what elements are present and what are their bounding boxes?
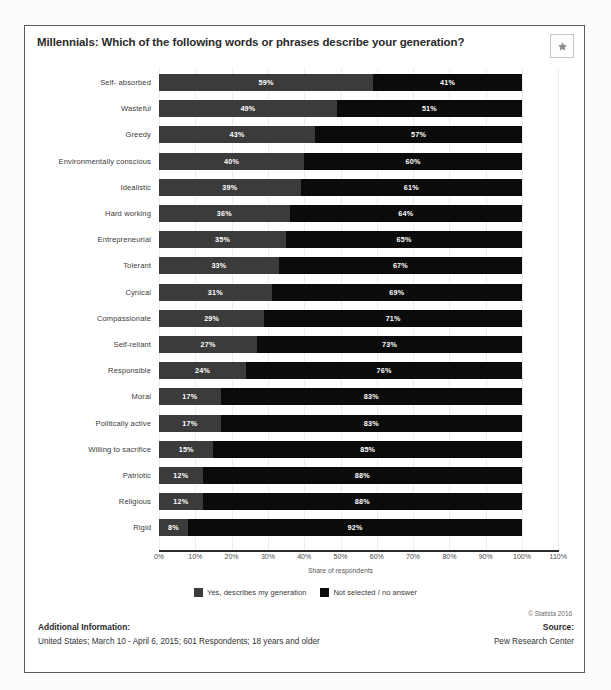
chart-bar-row: Willing to sacrifice15%85% [25, 437, 586, 462]
bar-segment-no[interactable]: 92% [188, 519, 522, 536]
legend-swatch [320, 588, 329, 597]
stacked-bar[interactable]: 24%76% [159, 362, 559, 379]
stacked-bar[interactable]: 40%60% [159, 153, 559, 170]
x-axis-tick: 50% [321, 553, 361, 560]
stacked-bar[interactable]: 15%85% [159, 441, 559, 458]
stacked-bar[interactable]: 33%67% [159, 257, 559, 274]
category-label: Patriotic [25, 463, 151, 488]
stacked-bar[interactable]: 31%69% [159, 284, 559, 301]
x-axis-tick: 80% [429, 553, 469, 560]
source-heading: Source: [374, 622, 574, 632]
category-label: Rigid [25, 515, 151, 540]
bar-segment-no[interactable]: 64% [290, 205, 522, 222]
x-axis-tick-labels: 0%10%20%30%40%50%60%70%80%90%100%110% [25, 553, 586, 567]
chart-legend: Yes, describes my generationNot selected… [25, 588, 586, 597]
category-label: Moral [25, 384, 151, 409]
legend-swatch [194, 588, 203, 597]
category-label: Environmentally conscious [25, 149, 151, 174]
x-axis-title: Share of respondents [159, 567, 522, 574]
page-title: Millennials: Which of the following word… [37, 36, 537, 48]
bar-segment-no[interactable]: 88% [203, 467, 522, 484]
category-label: Self-reliant [25, 332, 151, 357]
category-label: Hard working [25, 201, 151, 226]
bar-segment-yes[interactable]: 35% [159, 231, 286, 248]
bar-segment-no[interactable]: 85% [213, 441, 522, 458]
chart-card: Millennials: Which of the following word… [24, 25, 585, 673]
legend-label: Not selected / no answer [333, 588, 417, 597]
chart-bar-row: Patriotic12%88% [25, 463, 586, 488]
stacked-bar[interactable]: 12%88% [159, 493, 559, 510]
stacked-bar[interactable]: 49%51% [159, 100, 559, 117]
stacked-bar[interactable]: 59%41% [159, 74, 559, 91]
category-label: Wasteful [25, 96, 151, 121]
x-axis-tick: 40% [284, 553, 324, 560]
bar-segment-yes[interactable]: 12% [159, 493, 203, 510]
source-body: Pew Research Center [374, 635, 574, 649]
bar-segment-yes[interactable]: 27% [159, 336, 257, 353]
bar-segment-yes[interactable]: 40% [159, 153, 304, 170]
bar-segment-yes[interactable]: 33% [159, 257, 279, 274]
bar-segment-yes[interactable]: 39% [159, 179, 301, 196]
category-label: Tolerant [25, 253, 151, 278]
bar-segment-no[interactable]: 76% [246, 362, 522, 379]
chart-plot-area: Self- absorbed59%41%Wasteful49%51%Greedy… [25, 68, 586, 548]
stacked-bar[interactable]: 29%71% [159, 310, 559, 327]
chart-bar-row: Self- absorbed59%41% [25, 70, 586, 95]
bar-segment-no[interactable]: 67% [279, 257, 522, 274]
bar-segment-yes[interactable]: 17% [159, 415, 221, 432]
additional-information-body: United States; March 10 - April 6, 2015;… [38, 635, 368, 649]
chart-bar-row: Greedy43%57% [25, 122, 586, 147]
star-icon [557, 41, 568, 52]
bar-segment-no[interactable]: 57% [315, 126, 522, 143]
bar-segment-yes[interactable]: 59% [159, 74, 373, 91]
bar-segment-no[interactable]: 88% [203, 493, 522, 510]
legend-item[interactable]: Not selected / no answer [320, 588, 417, 597]
bar-segment-no[interactable]: 60% [304, 153, 522, 170]
bar-segment-no[interactable]: 71% [264, 310, 522, 327]
stacked-bar[interactable]: 17%83% [159, 415, 559, 432]
additional-information-heading: Additional Information: [38, 622, 368, 632]
x-axis-tick: 30% [248, 553, 288, 560]
copyright-notice: © Statista 2016 [528, 610, 572, 617]
stacked-bar[interactable]: 35%65% [159, 231, 559, 248]
bar-segment-no[interactable]: 83% [221, 388, 522, 405]
bar-segment-no[interactable]: 51% [337, 100, 522, 117]
bar-segment-yes[interactable]: 12% [159, 467, 203, 484]
stacked-bar[interactable]: 27%73% [159, 336, 559, 353]
stacked-bar[interactable]: 12%88% [159, 467, 559, 484]
bar-segment-no[interactable]: 83% [221, 415, 522, 432]
chart-bar-row: Rigid8%92% [25, 515, 586, 540]
stacked-bar[interactable]: 8%92% [159, 519, 559, 536]
bar-segment-yes[interactable]: 15% [159, 441, 213, 458]
stacked-bar[interactable]: 36%64% [159, 205, 559, 222]
legend-item[interactable]: Yes, describes my generation [194, 588, 306, 597]
bar-segment-no[interactable]: 61% [301, 179, 522, 196]
favorite-button[interactable] [550, 34, 574, 58]
bar-segment-yes[interactable]: 36% [159, 205, 290, 222]
bar-segment-yes[interactable]: 8% [159, 519, 188, 536]
chart-bar-row: Compassionate29%71% [25, 306, 586, 331]
chart-header: Millennials: Which of the following word… [25, 26, 584, 62]
x-axis-tick: 70% [393, 553, 433, 560]
bar-segment-yes[interactable]: 49% [159, 100, 337, 117]
bar-segment-no[interactable]: 65% [286, 231, 522, 248]
category-label: Willing to sacrifice [25, 437, 151, 462]
x-axis-tick: 0% [139, 553, 179, 560]
bar-segment-yes[interactable]: 31% [159, 284, 272, 301]
stacked-bar[interactable]: 17%83% [159, 388, 559, 405]
category-label: Cynical [25, 280, 151, 305]
chart-bar-row: Entrepreneurial35%65% [25, 227, 586, 252]
bar-segment-no[interactable]: 73% [257, 336, 522, 353]
chart-bar-row: Tolerant33%67% [25, 253, 586, 278]
bar-segment-no[interactable]: 41% [373, 74, 522, 91]
chart-bar-row: Moral17%83% [25, 384, 586, 409]
bar-segment-yes[interactable]: 43% [159, 126, 315, 143]
stacked-bar[interactable]: 43%57% [159, 126, 559, 143]
bar-segment-yes[interactable]: 24% [159, 362, 246, 379]
bar-segment-yes[interactable]: 29% [159, 310, 264, 327]
bar-segment-yes[interactable]: 17% [159, 388, 221, 405]
chart-bar-row: Wasteful49%51% [25, 96, 586, 121]
stacked-bar[interactable]: 39%61% [159, 179, 559, 196]
x-axis-line [159, 550, 559, 552]
bar-segment-no[interactable]: 69% [272, 284, 522, 301]
